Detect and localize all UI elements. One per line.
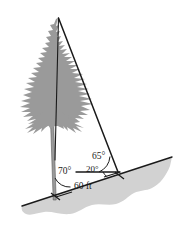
trigonometry-figure: 70° 20° 65° 60 ft <box>0 0 175 229</box>
label-70-degrees: 70° <box>58 166 72 176</box>
label-60-ft: 60 ft <box>74 181 92 191</box>
label-65-degrees: 65° <box>92 151 106 161</box>
figure-canvas: 70° 20° 65° 60 ft <box>0 0 175 229</box>
angle-arc-70 <box>55 178 71 187</box>
label-20-degrees: 20° <box>86 164 99 174</box>
